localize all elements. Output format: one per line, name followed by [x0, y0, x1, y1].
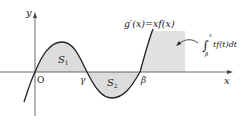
y-axis-label: y: [25, 7, 32, 18]
integral-upper-limit: x: [209, 32, 213, 38]
x-axis-arrow-icon: [227, 70, 233, 74]
curve-label: g′(x)=xf(x): [124, 18, 175, 29]
integral-region: [140, 31, 185, 72]
y-axis-arrow-icon: [33, 12, 37, 18]
graph-diagram: y x O γ β S1 S2 g′(x)=xf(x) ∫ x β tf(t)d…: [0, 0, 244, 120]
integrand: tf(t)dt: [213, 40, 238, 49]
origin-label: O: [37, 75, 44, 85]
x-axis-label: x: [224, 75, 230, 86]
beta-label: β: [140, 75, 146, 85]
gamma-label: γ: [80, 75, 86, 85]
integral-lower-limit: β: [204, 51, 208, 58]
